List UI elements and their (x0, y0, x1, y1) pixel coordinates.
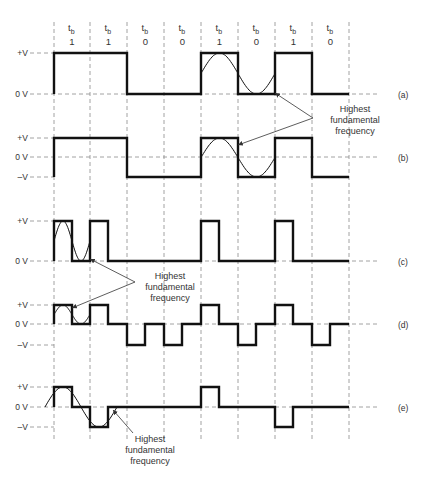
level-label: 0 V (15, 402, 28, 412)
bit-value: 1 (69, 36, 74, 47)
arrow-icon (90, 259, 135, 282)
waveform-label: (b) (398, 153, 409, 163)
digital-waveform (54, 53, 349, 94)
bit-period-label: tb (105, 22, 112, 35)
annotation-text: fundamental (330, 115, 380, 125)
waveform-label: (e) (398, 403, 409, 413)
bit-value: 1 (217, 36, 222, 47)
bit-period-label: tb (216, 22, 223, 35)
bit-value: 0 (143, 36, 148, 47)
level-label: –V (18, 172, 29, 182)
bit-value: 0 (328, 36, 333, 47)
highest-frequency-annotation: Highestfundamentalfrequency (113, 410, 175, 466)
annotation-text: frequency (150, 293, 190, 303)
annotation-text: Highest (135, 434, 166, 444)
annotation-text: fundamental (145, 282, 195, 292)
level-label: 0 V (15, 89, 28, 99)
waveform-label: (d) (398, 320, 409, 330)
waveform-a: +V0 V(a) (15, 48, 408, 100)
bit-value: 0 (180, 36, 185, 47)
waveform-e: +V0 V–V(e) (15, 382, 408, 432)
level-label: 0 V (15, 152, 28, 162)
annotation-text: Highest (340, 104, 371, 114)
bit-period-label: tb (179, 22, 186, 35)
waveform-b: +V0 V–V(b) (15, 133, 408, 182)
level-label: +V (17, 216, 28, 226)
annotation-text: Highest (155, 271, 186, 281)
annotation-text: fundamental (125, 445, 175, 455)
annotation-text: frequency (130, 456, 170, 466)
annotations: HighestfundamentalfrequencyHighestfundam… (72, 93, 380, 466)
level-label: 0 V (15, 319, 28, 329)
level-label: 0 V (15, 256, 28, 266)
arrow-icon (113, 410, 133, 433)
bit-period-label: tb (68, 22, 75, 35)
arrow-icon (275, 93, 313, 118)
bit-value: 0 (254, 36, 259, 47)
bit-header: tb1tb1tb0tb0tb1tb0tb1tb0 (68, 22, 333, 47)
bit-period-label: tb (290, 22, 297, 35)
waveform-label: (a) (398, 90, 409, 100)
digital-waveform (54, 387, 349, 427)
bit-period-label: tb (142, 22, 149, 35)
level-label: +V (17, 300, 28, 310)
level-label: +V (17, 133, 28, 143)
waveform-label: (c) (398, 257, 408, 267)
line-encoding-diagram: tb1tb1tb0tb0tb1tb0tb1tb0 +V0 V(a)+V0 V–V… (0, 0, 422, 482)
bit-value: 1 (291, 36, 296, 47)
level-label: +V (17, 382, 28, 392)
highest-frequency-annotation: Highestfundamentalfrequency (72, 259, 195, 308)
digital-waveform (54, 221, 349, 261)
digital-waveform (54, 305, 349, 345)
level-label: –V (18, 422, 29, 432)
annotation-text: frequency (335, 126, 375, 136)
level-label: –V (18, 340, 29, 350)
bit-value: 1 (106, 36, 111, 47)
level-label: +V (17, 48, 28, 58)
bit-period-label: tb (327, 22, 334, 35)
bit-period-label: tb (253, 22, 260, 35)
digital-waveform (54, 138, 349, 177)
